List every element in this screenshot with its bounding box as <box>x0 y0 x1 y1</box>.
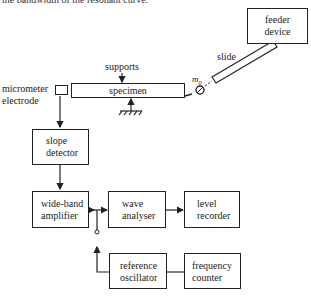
slope-detector-box: slope detector <box>32 129 89 165</box>
electrode-box <box>55 85 68 95</box>
electrode-label: micrometer electrode <box>2 83 48 107</box>
feeder-device-box: feeder device <box>247 8 308 44</box>
mass-label: m0 <box>192 73 202 89</box>
slide-label: slide <box>217 51 236 63</box>
wave-analyser-box: wave analyser <box>108 191 166 228</box>
frequency-counter-box: frequency counter <box>184 253 241 289</box>
specimen-box: specimen <box>71 83 185 98</box>
supports-label: supports <box>105 61 139 73</box>
wide-band-amplifier-box: wide-band amplifier <box>32 191 89 228</box>
level-recorder-box: level recorder <box>184 191 240 228</box>
ground-icon <box>119 111 142 115</box>
reference-oscillator-box: reference oscillator <box>109 253 167 289</box>
